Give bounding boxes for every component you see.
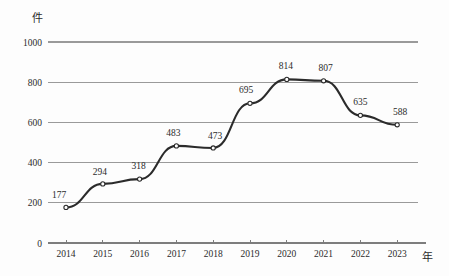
y-axis-tick-label: 1000: [23, 38, 42, 48]
x-axis-tick-label: 2016: [130, 249, 149, 259]
y-axis-tick-label: 800: [28, 78, 43, 88]
x-axis-tick-label: 2014: [57, 249, 76, 259]
y-axis-tick-label: 400: [28, 158, 43, 168]
data-point-label: 635: [353, 97, 368, 107]
data-point-label: 318: [131, 161, 146, 171]
data-point-marker: [211, 146, 215, 150]
data-point-marker: [174, 144, 178, 148]
data-point-label: 473: [208, 131, 223, 141]
y-axis-tick-labels: 02004006008001000: [23, 38, 42, 249]
x-axis-tick-label: 2017: [167, 249, 186, 259]
data-point-marker: [322, 79, 326, 83]
x-axis-tick-label: 2015: [93, 249, 112, 259]
data-point-label: 177: [52, 190, 67, 200]
x-axis-tick-label: 2018: [204, 249, 223, 259]
y-axis-tick-label: 600: [28, 118, 43, 128]
y-axis-tick-label: 200: [28, 198, 43, 208]
data-point-marker: [248, 101, 252, 105]
data-point-marker: [101, 182, 105, 186]
x-axis-tick-labels: 2014201520162017201820192020202120222023: [57, 249, 407, 259]
x-axis-tick-label: 2021: [314, 249, 333, 259]
data-point-marker: [358, 113, 362, 117]
chart-canvas: 02004006008001000 2014201520162017201820…: [0, 0, 449, 276]
x-axis-tick-label: 2019: [241, 249, 260, 259]
line-chart: 件 年 02004006008001000 201420152016201720…: [0, 0, 449, 276]
y-axis-tick-label: 0: [37, 239, 42, 249]
data-point-label: 483: [166, 128, 181, 138]
data-point-label: 807: [318, 63, 333, 73]
x-axis-tick-label: 2020: [277, 249, 296, 259]
x-axis-tick-label: 2023: [388, 249, 407, 259]
x-axis-tick-label: 2022: [351, 249, 370, 259]
data-point-label: 294: [93, 167, 108, 177]
data-point-marker: [395, 123, 399, 127]
data-point-markers: [64, 77, 399, 209]
series-line: [66, 79, 397, 207]
data-point-label: 695: [239, 85, 254, 95]
data-series-line: [66, 79, 397, 207]
data-point-marker: [138, 177, 142, 181]
x-axis: [48, 240, 426, 244]
data-point-marker: [64, 205, 68, 209]
data-point-marker: [285, 77, 289, 81]
data-point-label: 814: [279, 61, 294, 71]
data-point-label: 588: [393, 107, 408, 117]
